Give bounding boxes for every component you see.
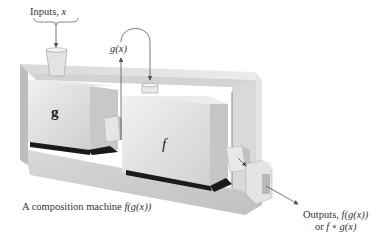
machine-f-letter: f xyxy=(162,136,166,153)
inputs-label: Inputs, x xyxy=(30,6,66,18)
machine-g xyxy=(28,80,124,155)
input-cup-g xyxy=(46,48,67,76)
outputs-label: Outputs, f(g(x)) or f ∘ g(x) xyxy=(303,209,368,233)
input-cup-f xyxy=(142,83,158,93)
machine-g-letter: g xyxy=(51,104,59,121)
figure-caption: A composition machine f(g(x)) xyxy=(22,201,151,213)
outputs-label-line2: or f ∘ g(x) xyxy=(303,221,368,233)
intermediate-gx-label: g(x) xyxy=(110,43,127,55)
outputs-label-line1: Outputs, f(g(x)) xyxy=(303,209,368,221)
